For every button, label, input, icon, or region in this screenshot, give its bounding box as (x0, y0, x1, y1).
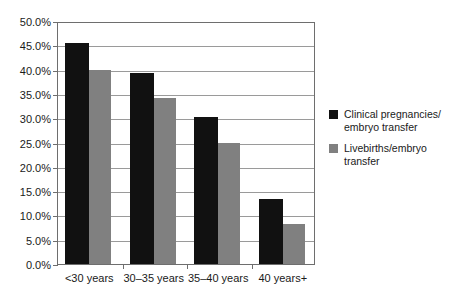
x-axis-tick (123, 264, 124, 269)
chart-legend: Clinical pregnancies/ embryo transferLiv… (329, 108, 457, 176)
plot-area (57, 22, 315, 265)
legend-item: Clinical pregnancies/ embryo transfer (329, 108, 457, 133)
legend-label: Livebirths/embryo transfer (344, 142, 427, 167)
bar (259, 199, 283, 264)
legend-swatch (329, 144, 338, 153)
y-axis-tick-label: 40.0% (20, 65, 51, 76)
y-axis-tick-label: 50.0% (20, 17, 51, 28)
y-axis-tick-label: 0.0% (26, 260, 51, 271)
bar-chart: 0.0%5.0%10.0%15.0%20.0%25.0%30.0%35.0%40… (0, 0, 457, 301)
bar (65, 43, 89, 264)
y-axis-tick-label: 30.0% (20, 114, 51, 125)
y-axis-tick-label: 25.0% (20, 138, 51, 149)
x-axis-labels: <30 years30–35 years35–40 years40 years+ (57, 272, 315, 288)
y-axis-tick-label: 45.0% (20, 41, 51, 52)
x-axis-category-label: 40 years+ (258, 272, 307, 285)
bar (218, 143, 240, 264)
y-axis-tick-label: 20.0% (20, 162, 51, 173)
bar (130, 73, 154, 264)
legend-item: Livebirths/embryo transfer (329, 142, 457, 167)
y-axis-tick (53, 265, 58, 266)
x-axis-tick (187, 264, 188, 269)
x-axis-category-label: 30–35 years (123, 272, 184, 285)
bar (194, 117, 218, 264)
legend-label: Clinical pregnancies/ embryo transfer (344, 108, 441, 133)
y-axis-tick-label: 10.0% (20, 211, 51, 222)
x-axis-category-label: 35–40 years (188, 272, 249, 285)
bar (283, 224, 305, 264)
bar (89, 70, 111, 264)
legend-swatch (329, 110, 338, 119)
bars-layer (58, 22, 315, 264)
bar (154, 98, 176, 264)
x-axis-tick (252, 264, 253, 269)
y-axis-tick-label: 35.0% (20, 89, 51, 100)
y-axis-labels: 0.0%5.0%10.0%15.0%20.0%25.0%30.0%35.0%40… (0, 22, 51, 265)
y-axis-tick-label: 15.0% (20, 187, 51, 198)
y-axis-tick-label: 5.0% (26, 235, 51, 246)
x-axis-category-label: <30 years (65, 272, 114, 285)
